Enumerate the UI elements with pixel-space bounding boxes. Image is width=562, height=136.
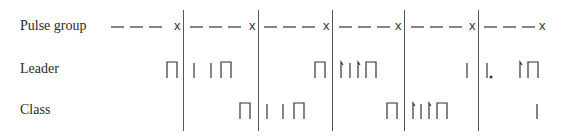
leader-tickbar-icon <box>520 62 522 78</box>
class-bracket-icon <box>387 103 397 119</box>
rhythm-glyph-layer <box>0 0 562 136</box>
leader-tickbar-icon <box>358 62 360 78</box>
leader-bar-dot-icon <box>487 63 492 78</box>
class-bracket-icon <box>240 103 250 119</box>
leader-bracket-icon <box>167 62 177 78</box>
leader-bracket-icon <box>221 62 231 78</box>
pulse-group-diagram: Pulse group Leader Class xxxxxx <box>0 0 562 136</box>
leader-tickbar-icon <box>341 62 343 78</box>
leader-bracket-icon <box>366 62 376 78</box>
leader-bracket-icon <box>528 62 538 78</box>
class-tickbar-icon <box>413 103 415 119</box>
class-bracket-icon <box>294 103 304 119</box>
leader-bracket-icon <box>315 62 325 78</box>
class-tickbar-icon <box>429 103 431 119</box>
class-bracket-icon <box>437 103 447 119</box>
